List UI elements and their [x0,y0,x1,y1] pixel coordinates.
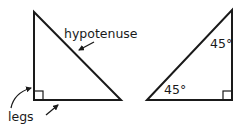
right-angle-marker [223,91,232,100]
right-triangle: 45° 45° [147,10,232,100]
hypotenuse-label: hypotenuse [64,26,138,41]
diagram-canvas: hypotenuse legs 45° 45° [0,0,237,125]
angle-top-label: 45° [210,36,232,51]
legs-arrow-vertical-icon [11,88,31,108]
legs-arrow-horizontal-icon [46,105,58,115]
hypotenuse-arrow-icon [79,42,94,50]
left-triangle: hypotenuse legs [8,12,138,124]
legs-label: legs [8,109,34,124]
right-triangle-shape [147,10,232,100]
angle-bottom-label: 45° [164,82,186,97]
right-angle-marker [34,91,43,100]
